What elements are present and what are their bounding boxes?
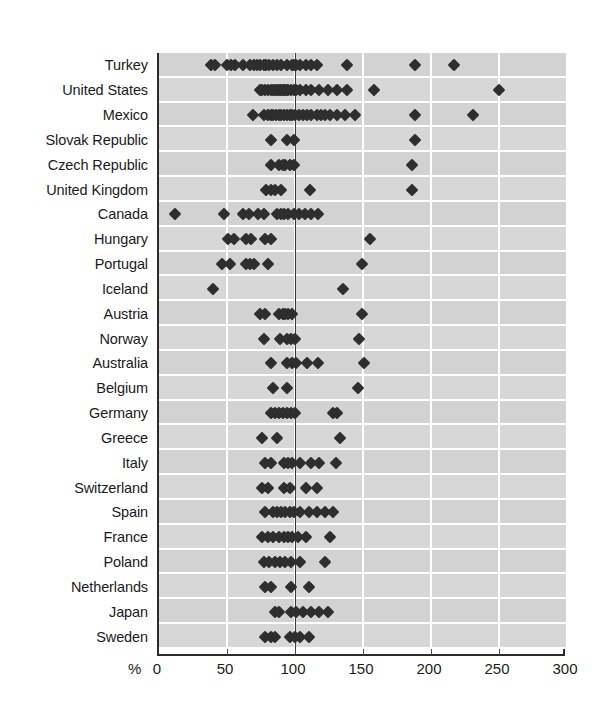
category-label-turkey: Turkey: [0, 58, 148, 73]
category-label-united-kingdom: United Kingdom: [0, 183, 148, 198]
x-axis-tick: [499, 649, 500, 655]
category-label-norway: Norway: [0, 332, 148, 347]
category-label-austria: Austria: [0, 307, 148, 322]
category-label-italy: Italy: [0, 456, 148, 471]
x-axis-tick-label: 300: [552, 660, 577, 677]
category-label-iceland: Iceland: [0, 282, 148, 297]
category-label-canada: Canada: [0, 207, 148, 222]
category-label-france: France: [0, 530, 148, 545]
category-label-portugal: Portugal: [0, 257, 148, 272]
category-label-germany: Germany: [0, 406, 148, 421]
vertical-gridline: [430, 53, 432, 649]
category-label-netherlands: Netherlands: [0, 580, 148, 595]
category-label-australia: Australia: [0, 356, 148, 371]
x-axis-tick-label: 150: [348, 660, 373, 677]
dot-strip-chart: TurkeyUnited StatesMexicoSlovak Republic…: [0, 0, 602, 711]
x-axis-tick-label: 50: [217, 660, 234, 677]
vertical-gridline: [566, 53, 568, 649]
category-label-greece: Greece: [0, 431, 148, 446]
x-axis-tick: [363, 649, 364, 655]
x-axis-tick: [431, 649, 432, 655]
x-axis-tick-label: 100: [280, 660, 305, 677]
category-label-belgium: Belgium: [0, 381, 148, 396]
category-label-slovak-republic: Slovak Republic: [0, 133, 148, 148]
x-axis-unit-label: %: [128, 660, 141, 677]
vertical-gridline: [226, 53, 228, 649]
category-label-japan: Japan: [0, 605, 148, 620]
category-label-united-states: United States: [0, 83, 148, 98]
category-label-sweden: Sweden: [0, 630, 148, 645]
plot-area: [157, 53, 567, 649]
x-axis-tick: [227, 649, 228, 655]
x-axis-tick: [295, 649, 296, 655]
category-axis: TurkeyUnited StatesMexicoSlovak Republic…: [0, 53, 148, 649]
category-label-mexico: Mexico: [0, 108, 148, 123]
category-label-hungary: Hungary: [0, 232, 148, 247]
category-label-poland: Poland: [0, 555, 148, 570]
x-axis-tick-label: 0: [153, 660, 161, 677]
vertical-gridline: [362, 53, 364, 649]
category-label-spain: Spain: [0, 505, 148, 520]
x-axis-tick-label: 250: [484, 660, 509, 677]
category-label-czech-republic: Czech Republic: [0, 158, 148, 173]
vertical-gridline: [498, 53, 500, 649]
x-axis-frame: [157, 649, 565, 656]
category-label-switzerland: Switzerland: [0, 481, 148, 496]
x-axis-tick-label: 200: [416, 660, 441, 677]
